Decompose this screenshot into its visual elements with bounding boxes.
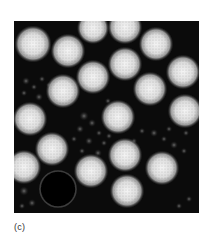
debris-particle	[19, 203, 25, 209]
virus-particle	[76, 60, 111, 95]
debris-particle	[101, 140, 107, 146]
debris-particle	[161, 136, 167, 142]
debris-particle	[71, 136, 77, 142]
virus-particle	[14, 25, 52, 63]
debris-particle	[28, 199, 36, 207]
virus-particle	[139, 27, 174, 62]
debris-particle	[79, 111, 89, 121]
debris-particle	[183, 130, 189, 136]
empty-capsid	[40, 171, 76, 207]
virus-particle	[101, 100, 136, 135]
debris-particle	[166, 126, 172, 132]
virus-particle	[51, 34, 86, 69]
virus-particle	[108, 138, 143, 173]
empty-capsid-ring	[40, 171, 76, 207]
virus-particle	[145, 151, 180, 186]
panel-label: (c)	[14, 222, 25, 232]
debris-particle	[139, 128, 145, 134]
virus-particle	[133, 72, 168, 107]
debris-particle	[35, 93, 43, 101]
debris-particle	[88, 119, 96, 127]
debris-particle	[79, 148, 85, 154]
debris-particle	[31, 84, 37, 90]
debris-particle	[39, 76, 45, 82]
debris-particle	[176, 203, 182, 209]
debris-particle	[19, 186, 29, 196]
debris-particle	[186, 196, 192, 202]
debris-particle	[22, 77, 30, 85]
virus-particle	[46, 74, 81, 109]
virus-particle	[110, 174, 145, 209]
debris-particle	[106, 133, 112, 139]
debris-particle	[85, 137, 93, 145]
virus-particle	[108, 47, 143, 82]
debris-particle	[96, 130, 102, 136]
debris-particle	[181, 148, 187, 154]
micrograph-image	[14, 21, 199, 213]
debris-particle	[170, 141, 178, 149]
debris-particle	[150, 129, 158, 137]
virus-particle	[166, 55, 200, 90]
virus-particle	[74, 154, 109, 189]
debris-particle	[76, 125, 84, 133]
virus-particle	[14, 102, 48, 137]
debris-particle	[21, 90, 27, 96]
micrograph-canvas	[14, 21, 199, 213]
figure-panel: (c)	[0, 0, 210, 246]
